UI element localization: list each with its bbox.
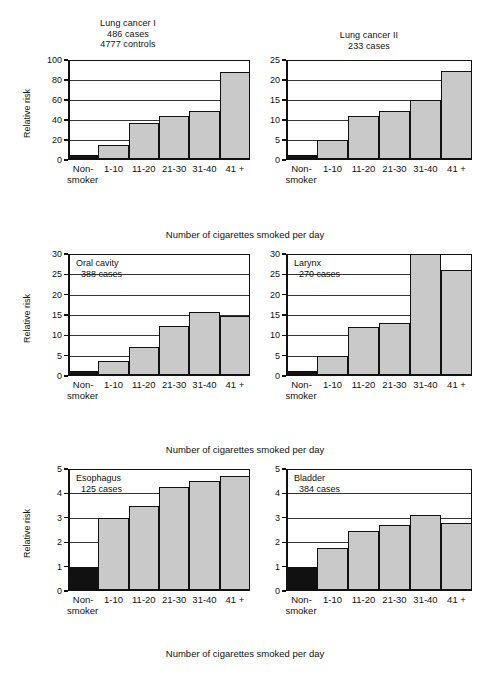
- y-axis-tick-label: 10: [252, 115, 280, 125]
- x-tick-nonsmoker-line2: smoker: [285, 390, 316, 401]
- chart-title-text: Esophagus: [76, 473, 122, 484]
- gridline: [286, 518, 472, 519]
- x-axis-tick-label-5: 41 +: [225, 379, 244, 390]
- x-axis-tick-label-4: 31-40: [192, 379, 216, 390]
- x-tick-nonsmoker-line2: smoker: [285, 605, 316, 616]
- gridline: [68, 295, 250, 296]
- y-axis-tick-label: 100: [34, 55, 62, 65]
- x-tick-nonsmoker-line1: Non-: [73, 594, 94, 605]
- y-axis-tick-label: 5: [252, 464, 280, 474]
- plot-frame-top: [286, 254, 472, 255]
- y-axis-tick-label: 0: [252, 586, 280, 596]
- y-axis-tick-label: 40: [34, 115, 62, 125]
- bar-lung-cancer-1-5: [220, 72, 250, 160]
- bar-larynx-3: [379, 323, 410, 376]
- x-axis-tick-label-0: Non-smoker: [286, 594, 316, 616]
- bar-esophagus-1: [98, 518, 128, 591]
- chart-subtitle-line-0: 270 cases: [294, 269, 340, 280]
- x-tick-nonsmoker-line2: smoker: [67, 605, 98, 616]
- x-axis-tick-label-1: 1-10: [323, 163, 342, 174]
- chart-subtitle-line-0: 388 cases: [76, 269, 122, 280]
- chart-title-text: Lung cancer I: [8, 18, 248, 29]
- x-axis-tick-label-3: 21-30: [382, 594, 406, 605]
- chart-panel-lung-cancer-2: Lung cancer II233 cases0510152025Non-smo…: [248, 8, 490, 202]
- x-axis-tick-label-0: Non-smoker: [286, 379, 316, 401]
- x-axis-tick-label-4: 31-40: [413, 379, 437, 390]
- x-axis-caption-row-3: Number of cigarettes smoked per day: [8, 648, 482, 659]
- y-axis-tick-label: 1: [34, 562, 62, 572]
- bar-lung-cancer-2-4: [410, 100, 441, 160]
- plot-frame-top: [68, 60, 250, 61]
- x-axis-tick-label-5: 41 +: [225, 163, 244, 174]
- x-axis-tick-label-3: 21-30: [382, 379, 406, 390]
- y-axis-tick-label: 60: [34, 95, 62, 105]
- y-axis-line: [286, 469, 288, 591]
- plot-frame-top: [286, 60, 472, 61]
- plot-frame-top: [68, 469, 250, 470]
- bar-lung-cancer-1-3: [159, 116, 189, 160]
- x-tick-nonsmoker-line2: smoker: [285, 174, 316, 185]
- bar-bladder-2: [348, 531, 379, 591]
- chart-subtitle-line-0: 486 cases: [8, 29, 248, 40]
- x-axis-tick-labels-larynx: Non-smoker1-1011-2021-3031-4041 +: [286, 379, 472, 405]
- y-axis-label-lung-cancer-1: Relative risk: [22, 89, 32, 138]
- x-axis-tick-label-1: 1-10: [323, 594, 342, 605]
- y-axis-tick-label: 3: [34, 513, 62, 523]
- bar-bladder-3: [379, 525, 410, 591]
- x-axis-tick-label-2: 11-20: [132, 594, 156, 605]
- y-axis-label-oral-cavity: Relative risk: [22, 294, 32, 343]
- y-axis-tick-label: 0: [34, 371, 62, 381]
- chart-title-lung-cancer-1: Lung cancer I486 cases4777 controls: [8, 18, 248, 50]
- plot-area-lung-cancer-1: 020406080100: [68, 60, 250, 160]
- chart-title-lung-cancer-2: Lung cancer II233 cases: [248, 30, 490, 51]
- y-axis-tick-label: 25: [252, 55, 280, 65]
- bar-bladder-5: [441, 523, 472, 591]
- x-axis-tick-label-1: 1-10: [323, 379, 342, 390]
- y-axis-tick-label: 20: [34, 290, 62, 300]
- x-tick-nonsmoker-line1: Non-: [291, 379, 312, 390]
- x-axis-tick-label-3: 21-30: [162, 379, 186, 390]
- bar-oral-cavity-2: [129, 347, 159, 376]
- x-axis-tick-label-4: 31-40: [413, 594, 437, 605]
- bar-bladder-4: [410, 515, 441, 591]
- y-axis-tick-label: 10: [34, 330, 62, 340]
- x-axis-tick-label-2: 11-20: [352, 379, 376, 390]
- bar-larynx-2: [348, 327, 379, 376]
- x-axis-tick-label-2: 11-20: [352, 163, 376, 174]
- chart-panel-larynx: Larynx270 cases051015202530Non-smoker1-1…: [248, 240, 490, 418]
- y-axis-tick-label: 20: [252, 75, 280, 85]
- bar-esophagus-5: [220, 476, 250, 591]
- bar-oral-cavity-5: [220, 316, 250, 376]
- bar-bladder-1: [317, 548, 348, 591]
- y-axis-line: [68, 60, 70, 160]
- x-axis-tick-label-1: 1-10: [104, 594, 123, 605]
- y-axis-line: [286, 254, 288, 376]
- y-axis-tick-label: 25: [252, 269, 280, 279]
- plot-area-lung-cancer-2: 0510152025: [286, 60, 472, 160]
- bar-esophagus-4: [189, 481, 219, 591]
- x-axis-caption-row-2: Number of cigarettes smoked per day: [8, 444, 482, 455]
- y-axis-tick-label: 5: [34, 464, 62, 474]
- plot-frame-top: [68, 254, 250, 255]
- bar-lung-cancer-2-2: [348, 116, 379, 160]
- x-tick-nonsmoker-line1: Non-: [291, 163, 312, 174]
- x-axis-tick-label-2: 11-20: [132, 163, 156, 174]
- y-axis-tick-label: 5: [252, 351, 280, 361]
- x-tick-nonsmoker-line1: Non-: [73, 163, 94, 174]
- x-axis-tick-label-3: 21-30: [382, 163, 406, 174]
- x-axis-tick-label-4: 31-40: [192, 163, 216, 174]
- figure-relative-risk-smoking: Lung cancer I486 cases4777 controlsRelat…: [0, 0, 490, 675]
- chart-subtitle-line-0: 125 cases: [76, 484, 122, 495]
- x-axis-tick-label-5: 41 +: [447, 163, 466, 174]
- y-axis-tick-label: 10: [252, 330, 280, 340]
- x-axis-tick-labels-bladder: Non-smoker1-1011-2021-3031-4041 +: [286, 594, 472, 620]
- x-axis-caption-row-1: Number of cigarettes smoked per day: [8, 229, 482, 240]
- chart-subtitle-line-0: 384 cases: [294, 484, 340, 495]
- bar-lung-cancer-1-4: [189, 111, 219, 160]
- y-axis-tick-label: 0: [34, 155, 62, 165]
- bar-lung-cancer-2-5: [441, 71, 472, 160]
- bar-bladder-0: [286, 567, 317, 591]
- chart-panel-esophagus: Relative riskEsophagus125 cases012345Non…: [8, 455, 248, 633]
- chart-title-text: Lung cancer II: [248, 30, 490, 41]
- chart-title-oral-cavity: Oral cavity388 cases: [76, 258, 122, 280]
